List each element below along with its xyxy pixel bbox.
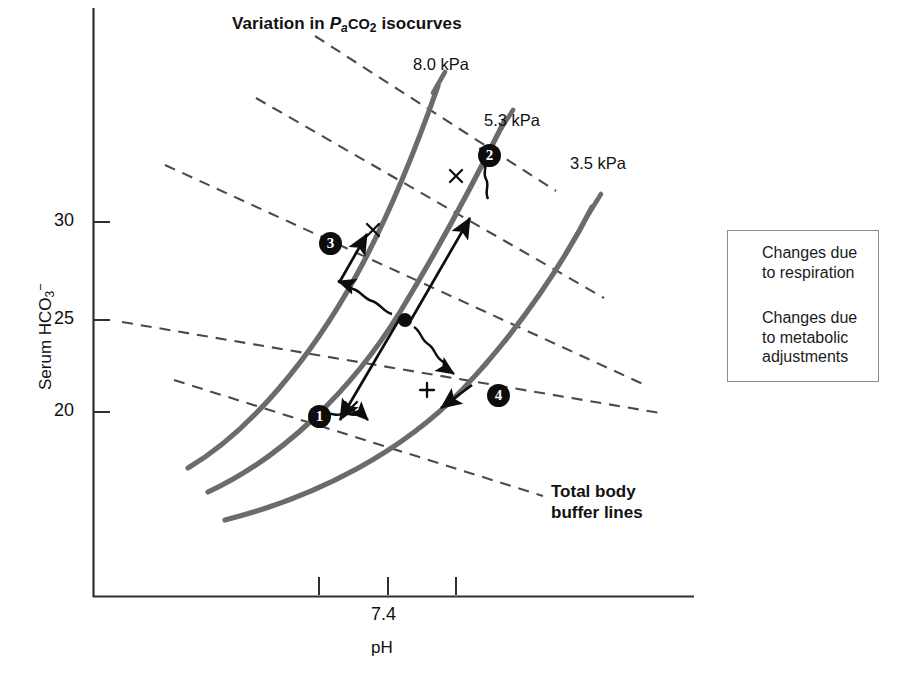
buffer-lines — [122, 36, 660, 496]
arrow-metabolic-acidosis — [441, 385, 472, 408]
legend-item-metabolic: Changes due to metabolic adjustments — [762, 308, 857, 367]
y-axis-title-superscript: − — [33, 283, 48, 291]
buffer-line — [256, 98, 604, 298]
arrow-metabolic-up — [408, 218, 470, 325]
title-co-subscript: 2 — [370, 21, 377, 35]
title-lead: Variation in — [232, 14, 330, 33]
page-title: Variation in PaCO2 isocurves — [232, 14, 462, 36]
isocurve-3-5-kpa — [225, 207, 592, 520]
acid-base-diagram: Variation in PaCO2 isocurves 8.0 kPa 5.3… — [0, 0, 901, 675]
endpoint-marker-cross-2 — [450, 170, 462, 182]
isocurve-label-5-3-kpa: 5.3 kPa — [484, 111, 540, 129]
legend-metabolic-line3: adjustments — [762, 347, 857, 367]
buffer-lines-annotation-line2: buffer lines — [551, 502, 643, 523]
legend-item-respiration: Changes due to respiration — [762, 243, 857, 282]
x-tick-label-7-4: 7.4 — [371, 604, 396, 624]
y-tick-label-20: 20 — [54, 400, 74, 420]
y-tick-label-30: 30 — [54, 210, 74, 230]
arrow-respiratory-acidosis — [325, 413, 368, 420]
legend-item-respiration-text: Changes due to respiration — [762, 243, 857, 282]
legend-metabolic-line2: to metabolic — [762, 328, 857, 348]
isocurve-label-3-5-kpa: 3.5 kPa — [570, 154, 626, 172]
y-axis-title-subscript: 3 — [43, 291, 57, 298]
y-axis-ticks — [94, 222, 110, 412]
x-axis-ticks — [319, 577, 456, 595]
legend-metabolic-line1: Changes due — [762, 308, 857, 328]
legend-respiration-line1: Changes due — [762, 243, 857, 263]
x-axis-title: pH — [371, 638, 393, 657]
isocurve-label-8-0-kpa: 8.0 kPa — [413, 55, 469, 73]
annotation-badge-4: 4 — [487, 384, 510, 407]
annotation-badge-3: 3 — [319, 232, 342, 255]
title-p-symbol: P — [330, 14, 341, 33]
endpoint-marker-plus-4 — [420, 383, 434, 397]
buffer-lines-annotation-line1: Total body — [551, 481, 643, 502]
legend-item-metabolic-text: Changes due to metabolic adjustments — [762, 308, 857, 367]
arrow-respiratory-down-right — [414, 327, 454, 374]
title-co: CO — [348, 16, 370, 32]
y-axis-title: Serum HCO3− — [34, 283, 58, 390]
legend-respiration-line2: to respiration — [762, 263, 857, 283]
buffer-lines-annotation: Total body buffer lines — [551, 481, 643, 524]
annotation-badge-1: 1 — [308, 405, 331, 428]
title-p-subscript: a — [341, 21, 348, 35]
y-axis-title-lead: Serum HCO — [36, 297, 55, 390]
buffer-line — [165, 165, 645, 385]
kpa-leader-lines — [433, 72, 601, 215]
annotation-badge-2: 2 — [478, 144, 501, 167]
title-tail: isocurves — [377, 14, 462, 33]
isocurves — [188, 86, 592, 520]
